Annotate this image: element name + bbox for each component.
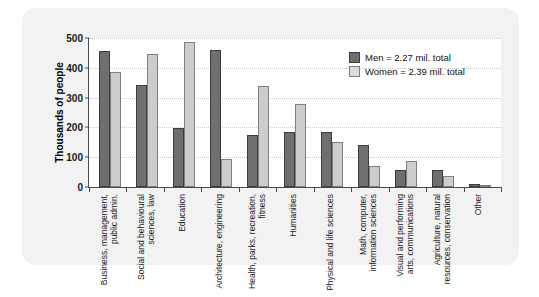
x-tick-mark bbox=[314, 187, 315, 192]
bar-women bbox=[147, 54, 158, 187]
chart-legend: Men = 2.27 mil. totalWomen = 2.39 mil. t… bbox=[349, 52, 465, 80]
x-axis-label-line: fitness bbox=[257, 194, 267, 289]
x-axis-label: Physical and life sciences bbox=[326, 194, 336, 291]
bar-men bbox=[210, 50, 221, 187]
x-axis-label: Math, computer,information sciences bbox=[359, 194, 378, 271]
x-axis-label: Education bbox=[178, 194, 188, 232]
x-axis-label: Visual and performingarts, communication… bbox=[396, 194, 415, 277]
x-axis-label-line: resources, conservation bbox=[442, 194, 452, 284]
x-label-cell: Business, management,public admin. bbox=[90, 194, 127, 294]
bar-men bbox=[469, 184, 480, 187]
x-label-cell: Architecture, engineering bbox=[201, 194, 238, 294]
x-axis-label: Health, parks, recreation,fitness bbox=[247, 194, 266, 289]
bar-men bbox=[395, 170, 406, 187]
y-tick-label: 0 bbox=[77, 182, 83, 193]
x-axis-label-line: Physical and life sciences bbox=[326, 194, 336, 291]
x-axis-label-line: Other bbox=[475, 194, 485, 215]
chart-panel: Thousands of people 0100200300400500 Bus… bbox=[22, 8, 519, 265]
bar-group bbox=[165, 38, 202, 187]
x-axis-label-line: Health, parks, recreation, bbox=[247, 194, 257, 289]
legend-item: Men = 2.27 mil. total bbox=[349, 52, 465, 63]
y-tick-label: 100 bbox=[66, 152, 83, 163]
bar-group bbox=[239, 38, 276, 187]
x-axis-label: Other bbox=[475, 194, 485, 215]
y-tick-label: 400 bbox=[66, 62, 83, 73]
legend-label: Women = 2.39 mil. total bbox=[365, 66, 465, 77]
x-label-cell: Math, computer,information sciences bbox=[350, 194, 387, 294]
x-tick-mark bbox=[89, 187, 90, 192]
bar-group bbox=[462, 38, 499, 187]
x-axis-label-line: sciences, law bbox=[146, 194, 156, 280]
x-tick-mark bbox=[276, 187, 277, 192]
x-label-cell: Agriculture, naturalresources, conservat… bbox=[424, 194, 461, 294]
bar-women bbox=[258, 86, 269, 187]
x-axis-label-line: Social and behavioural bbox=[136, 194, 146, 280]
x-tick-mark bbox=[351, 187, 352, 192]
y-tick-label: 300 bbox=[66, 92, 83, 103]
bar-women bbox=[184, 42, 195, 187]
x-tick-mark bbox=[239, 187, 240, 192]
x-label-cell: Health, parks, recreation,fitness bbox=[238, 194, 275, 294]
bar-group bbox=[276, 38, 313, 187]
bar-women bbox=[406, 161, 417, 187]
x-label-cell: Other bbox=[461, 194, 498, 294]
x-axis-label-line: information sciences bbox=[368, 194, 378, 271]
bar-women bbox=[221, 159, 232, 187]
y-axis-title-text: Thousands of people bbox=[54, 62, 65, 163]
bar-women bbox=[443, 176, 454, 187]
bar-group bbox=[314, 38, 351, 187]
legend-swatch bbox=[349, 52, 360, 63]
x-axis-label-line: arts, communications bbox=[405, 194, 415, 277]
x-label-cell: Physical and life sciences bbox=[313, 194, 350, 294]
bar-women bbox=[332, 142, 343, 187]
x-label-cell: Education bbox=[164, 194, 201, 294]
bar-group bbox=[91, 38, 128, 187]
bar-men bbox=[321, 132, 332, 187]
x-label-cell: Humanities bbox=[275, 194, 312, 294]
bar-men bbox=[173, 128, 184, 187]
x-tick-mark bbox=[426, 187, 427, 192]
x-axis-labels: Business, management,public admin.Social… bbox=[88, 194, 500, 294]
legend-swatch bbox=[349, 66, 360, 77]
x-axis-label-line: Humanities bbox=[289, 194, 299, 237]
x-label-cell: Visual and performingarts, communication… bbox=[387, 194, 424, 294]
bar-women bbox=[110, 72, 121, 187]
bar-group bbox=[202, 38, 239, 187]
x-axis-label: Humanities bbox=[289, 194, 299, 237]
x-axis-label-line: Education bbox=[178, 194, 188, 232]
x-tick-mark bbox=[501, 187, 502, 192]
x-axis-label-line: Architecture, engineering bbox=[215, 194, 225, 289]
x-label-cell: Social and behaviouralsciences, law bbox=[127, 194, 164, 294]
bar-men bbox=[99, 51, 110, 187]
bar-men bbox=[358, 145, 369, 187]
x-axis-label: Architecture, engineering bbox=[215, 194, 225, 289]
bar-women bbox=[295, 104, 306, 187]
legend-item: Women = 2.39 mil. total bbox=[349, 66, 465, 77]
bar-men bbox=[432, 170, 443, 187]
bar-women bbox=[480, 185, 491, 187]
x-axis-label: Business, management,public admin. bbox=[99, 194, 118, 285]
x-axis-label: Agriculture, naturalresources, conservat… bbox=[433, 194, 452, 284]
y-tick-label: 500 bbox=[66, 33, 83, 44]
x-tick-mark bbox=[126, 187, 127, 192]
x-axis-label: Social and behaviouralsciences, law bbox=[136, 194, 155, 280]
x-tick-mark bbox=[464, 187, 465, 192]
x-axis-label-line: public admin. bbox=[109, 194, 119, 285]
x-axis-label-line: Business, management, bbox=[99, 194, 109, 285]
y-axis-title: Thousands of people bbox=[52, 38, 66, 187]
bar-women bbox=[369, 166, 380, 187]
x-tick-mark bbox=[201, 187, 202, 192]
bar-men bbox=[136, 85, 147, 187]
x-tick-mark bbox=[389, 187, 390, 192]
y-tick-label: 200 bbox=[66, 122, 83, 133]
bar-men bbox=[284, 132, 295, 187]
bar-group bbox=[128, 38, 165, 187]
legend-label: Men = 2.27 mil. total bbox=[365, 52, 451, 63]
x-tick-mark bbox=[164, 187, 165, 192]
bar-men bbox=[247, 135, 258, 187]
